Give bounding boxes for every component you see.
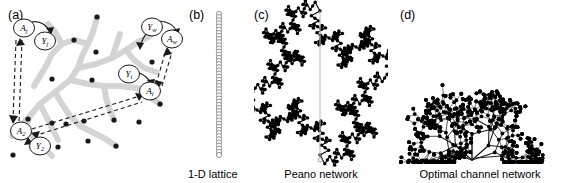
panel-c-caption: Peano network [254, 168, 388, 180]
panel-b-caption: 1-D lattice [188, 168, 256, 180]
node-Yi: Yi [119, 65, 140, 83]
figure-root: (a) [0, 0, 572, 183]
lattice-chain [216, 11, 221, 157]
panel-a-graphic: Aj Yj Yw Aw Yi [0, 0, 186, 183]
panel-d: (d) Optimal channel network [388, 0, 572, 183]
panel-c-graphic [254, 0, 388, 183]
node-Ai: Ai [140, 82, 161, 100]
panel-b-graphic [186, 0, 254, 183]
node-Aj: Aj [14, 19, 35, 37]
node-Y2: Y2 [30, 137, 51, 155]
panel-a: (a) [0, 0, 186, 183]
panel-b: (b) 1-D lattice [186, 0, 254, 183]
node-Yj: Yj [35, 32, 56, 50]
panel-d-caption: Optimal channel network [388, 168, 572, 180]
peano-network [254, 0, 388, 167]
node-Aw: Aw [162, 30, 183, 48]
panel-d-graphic [388, 0, 572, 183]
panel-c: (c) Peano network [254, 0, 388, 183]
optimal-channel-network [399, 83, 545, 164]
node-Yw: Yw [142, 18, 163, 36]
node-A2: A2 [11, 122, 32, 140]
